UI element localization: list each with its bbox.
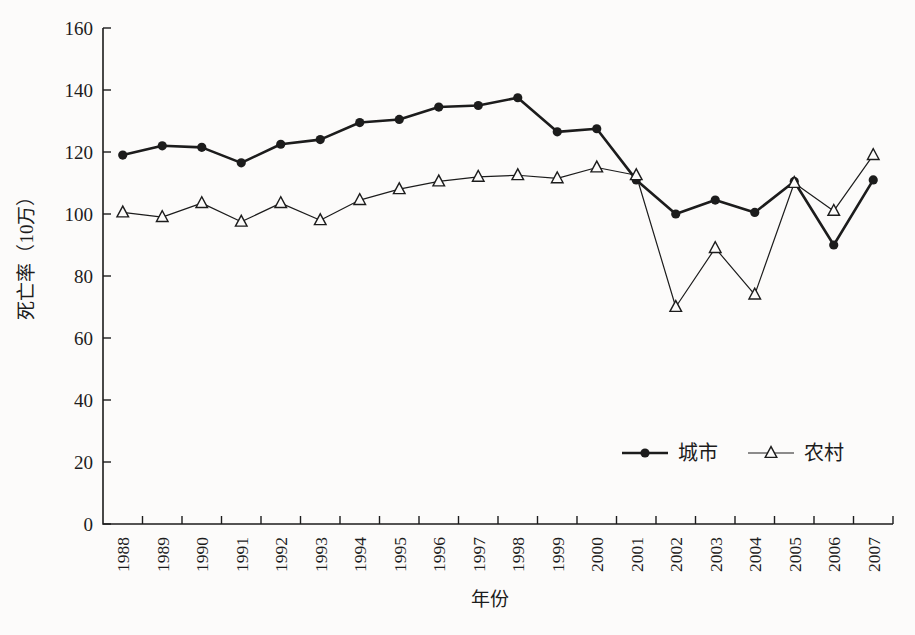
- legend-item-rural: 农村: [748, 442, 844, 464]
- rural-point-1991: [235, 215, 247, 226]
- x-tick-label: 2004: [745, 537, 765, 572]
- urban-point-2002: [671, 209, 680, 218]
- open-triangle-icon: [765, 447, 777, 458]
- x-tick-label: 1995: [390, 537, 410, 572]
- urban-point-2006: [829, 240, 838, 249]
- y-tick-label: 120: [65, 142, 94, 163]
- rural-point-1993: [314, 214, 326, 225]
- urban-point-1998: [513, 93, 522, 102]
- rural-point-2007: [867, 149, 879, 160]
- series: [117, 93, 879, 311]
- x-tick-label: 1996: [429, 537, 449, 572]
- urban-point-1995: [395, 115, 404, 124]
- y-axis-title: 死亡率（10万）: [16, 187, 37, 320]
- x-tick-label: 2007: [864, 537, 884, 572]
- series-rural-line: [123, 155, 874, 307]
- x-tick-label: 1991: [232, 537, 252, 572]
- y-tick-label: 100: [65, 204, 94, 225]
- y-tick-label: 160: [65, 18, 94, 39]
- legend-item-urban: 城市: [622, 442, 718, 464]
- urban-point-2003: [711, 195, 720, 204]
- y-tick-label: 20: [74, 452, 93, 473]
- urban-point-1992: [276, 140, 285, 149]
- axes: 0204060801001201401601988198919901991199…: [65, 18, 894, 573]
- y-tick-label: 40: [74, 390, 93, 411]
- x-tick-label: 1997: [469, 537, 489, 572]
- series-urban-line: [123, 98, 874, 245]
- urban-point-1991: [237, 158, 246, 167]
- urban-point-1989: [158, 141, 167, 150]
- filled-circle-icon: [640, 448, 649, 457]
- y-tick-label: 80: [74, 266, 93, 287]
- figure-page: 0204060801001201401601988198919901991199…: [0, 0, 915, 635]
- urban-point-1996: [434, 102, 443, 111]
- urban-point-1997: [474, 101, 483, 110]
- urban-point-1999: [553, 127, 562, 136]
- rural-point-1998: [512, 169, 524, 180]
- x-tick-label: 1999: [548, 537, 568, 572]
- y-tick-label: 140: [65, 80, 94, 101]
- urban-point-2007: [869, 175, 878, 184]
- x-tick-label: 2006: [824, 537, 844, 572]
- legend: 城市农村: [622, 442, 844, 464]
- x-tick-label: 2000: [587, 537, 607, 572]
- x-tick-label: 1993: [311, 537, 331, 572]
- rural-point-2003: [709, 242, 721, 253]
- urban-point-1990: [197, 143, 206, 152]
- legend-rural-label: 农村: [804, 442, 844, 464]
- rural-point-2002: [670, 301, 682, 312]
- x-tick-label: 1988: [113, 537, 133, 572]
- urban-point-2004: [750, 208, 759, 217]
- x-axis-title: 年份: [471, 589, 509, 610]
- rural-point-1997: [472, 170, 484, 181]
- rural-point-2000: [591, 161, 603, 172]
- x-tick-label: 2002: [666, 537, 686, 572]
- legend-urban-label: 城市: [678, 442, 718, 464]
- urban-point-1988: [118, 151, 127, 160]
- x-tick-label: 2003: [706, 537, 726, 572]
- rural-point-1990: [196, 197, 208, 208]
- x-tick-label: 2001: [627, 537, 647, 572]
- mortality-line-chart: 0204060801001201401601988198919901991199…: [0, 0, 915, 635]
- urban-point-1993: [316, 135, 325, 144]
- x-tick-label: 1998: [508, 537, 528, 572]
- urban-point-2000: [592, 124, 601, 133]
- y-tick-label: 0: [84, 514, 94, 535]
- x-tick-label: 2005: [785, 537, 805, 572]
- series-rural: [117, 149, 879, 312]
- x-tick-label: 1990: [192, 537, 212, 572]
- rural-point-1992: [275, 197, 287, 208]
- urban-point-1994: [355, 118, 364, 127]
- rural-point-1988: [117, 206, 129, 217]
- series-urban: [118, 93, 878, 249]
- x-tick-label: 1994: [350, 537, 370, 572]
- y-tick-label: 60: [74, 328, 93, 349]
- x-tick-label: 1989: [153, 537, 173, 572]
- x-tick-label: 1992: [271, 537, 291, 572]
